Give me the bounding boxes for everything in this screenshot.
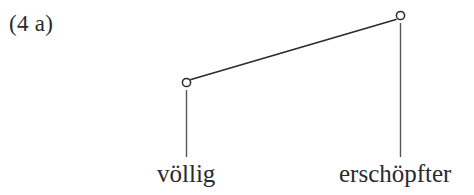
word-label-left: völlig: [157, 160, 215, 188]
contour-line: [191, 20, 396, 80]
tone-marker-right-circle-icon: [396, 11, 404, 19]
tone-marker-left-circle-icon: [182, 78, 190, 86]
word-label-right: erschöpfter: [339, 160, 451, 188]
figure-container: (4 a) völlig erschöpfter: [0, 0, 474, 195]
